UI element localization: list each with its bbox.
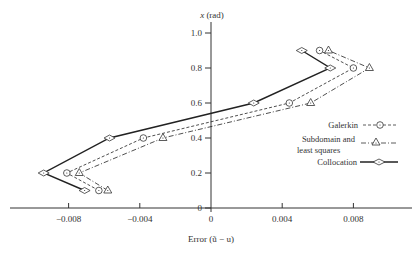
legend-label-collocation: Collocation [317,157,357,167]
x-tick-label: −0.008 [56,214,82,224]
legend-label-subdomain-2: least squares [297,145,340,155]
y-tick-label: 0.4 [191,133,203,143]
legend-item-collocation: Collocation [317,157,398,167]
data-point-marker [324,46,332,53]
y-tick-label: 0.2 [191,168,202,178]
y-tick-label: 1.0 [191,28,203,38]
x-tick-label: 0.008 [343,214,364,224]
data-point-marker [307,99,315,106]
series-galerkin [64,47,357,194]
x-tick-label: 0 [209,214,214,224]
y-axis-title: x (rad) [199,10,224,20]
y-tick-label: 0.8 [191,63,203,73]
legend-label-subdomain-1: Subdomain and [302,134,356,144]
legend: Galerkin Subdomain and least squares Col… [297,120,398,167]
y-tick-label: 0 [198,203,203,213]
data-point-marker [75,169,83,176]
legend-label-galerkin: Galerkin [328,120,358,130]
y-tick-label: 0.6 [191,98,203,108]
error-chart: −0.008−0.00400.0040.008 00.20.40.60.81.0… [0,0,420,254]
x-axis-title: Error (ũ − u) [188,234,234,244]
x-tick-label: −0.004 [127,214,153,224]
legend-item-subdomain: Subdomain and least squares [297,134,398,155]
x-tick-label: 0.004 [272,214,293,224]
legend-item-galerkin: Galerkin [328,120,398,130]
triangle-marker-icon [372,138,380,145]
data-point-marker [104,186,112,193]
